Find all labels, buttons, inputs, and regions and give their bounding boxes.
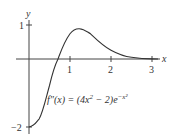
formula-annotation: f″(x) = (4x2 − 2)e−x²: [47, 93, 128, 106]
x-tick-label-1: 1: [67, 64, 72, 75]
chart: 1 2 3 1 −2 x y f″(x) = (4x2 − 2)e−x²: [0, 0, 184, 135]
curve-f-double-prime: [29, 29, 158, 127]
x-tick-label-2: 2: [108, 64, 113, 75]
x-tick-label-3: 3: [149, 64, 154, 75]
formula-prefix: f″(x) = (4x: [47, 94, 90, 106]
y-tick-label-1: 1: [19, 20, 24, 31]
y-tick-label-minus2: −2: [11, 122, 22, 133]
formula-exponent-2: −x²: [118, 93, 129, 101]
y-axis-label: y: [25, 8, 31, 19]
formula-middle: − 2)e: [93, 94, 118, 106]
x-axis-label: x: [161, 53, 167, 64]
